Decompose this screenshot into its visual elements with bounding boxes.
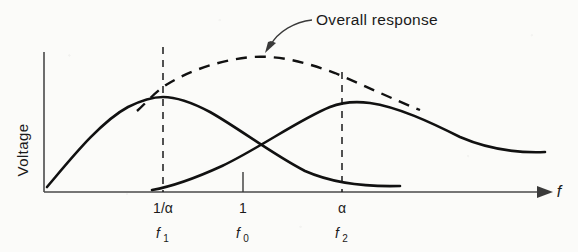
- tick-sublabel-f2-base: f: [335, 225, 341, 241]
- tick-label-1-over-alpha: 1/α: [153, 200, 173, 216]
- tick-label-one: 1: [239, 200, 247, 216]
- tick-sublabel-f0-base: f: [236, 225, 242, 241]
- tick-sublabel-f1-index: 1: [163, 233, 169, 244]
- series-stage-1-curve: [47, 97, 400, 187]
- chart-canvas: Voltage f 1/α 1 α f 1 f 0 f 2: [0, 0, 578, 252]
- tick-sublabel-f1-base: f: [156, 225, 162, 241]
- response-curve-figure: Voltage f 1/α 1 α f 1 f 0 f 2: [0, 0, 578, 252]
- tick-sublabel-f2-index: 2: [342, 233, 348, 244]
- tick-label-alpha: α: [338, 200, 346, 216]
- x-axis-label: f: [557, 183, 563, 200]
- y-axis-label: Voltage: [14, 124, 31, 177]
- series-overall-response-curve: [137, 57, 420, 111]
- tick-sublabel-f2: f 2: [335, 225, 348, 244]
- annotation-arrowhead: [265, 41, 276, 53]
- tick-sublabel-f1: f 1: [156, 225, 169, 244]
- tick-sublabel-f0: f 0: [236, 225, 249, 244]
- x-axis-arrowhead: [537, 186, 553, 198]
- annotation-leader-line: [270, 20, 312, 46]
- overall-response-label: Overall response: [316, 11, 438, 28]
- tick-sublabel-f0-index: 0: [243, 233, 249, 244]
- series-stage-2-curve: [152, 102, 545, 190]
